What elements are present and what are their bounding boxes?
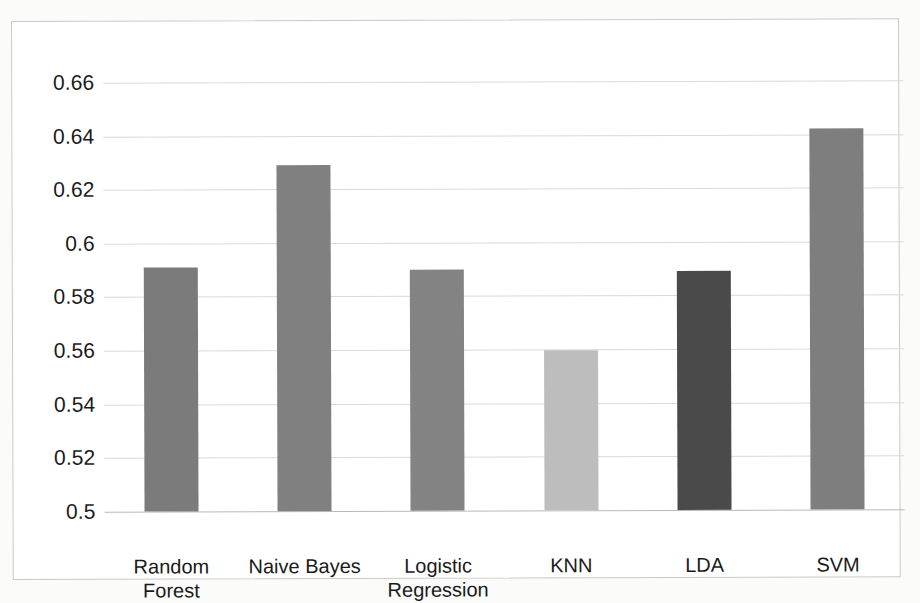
x-axis-category-label: LDA (638, 554, 771, 578)
gridline (104, 295, 904, 299)
y-axis-tick-label: 0.64 (24, 125, 94, 146)
x-axis-category-label: Naive Bayes (238, 555, 371, 579)
y-axis-tick-label: 0.56 (25, 340, 95, 361)
y-axis-tick-label: 0.62 (24, 179, 94, 200)
y-axis-tick-label: 0.54 (25, 393, 95, 414)
gridline (104, 456, 904, 460)
x-axis-category-label: Random Forest (105, 555, 238, 603)
bar-random-forest (143, 267, 198, 511)
y-axis-tick-label: 0.66 (24, 72, 94, 93)
y-axis: 0.660.640.620.60.580.560.540.520.5 (12, 56, 95, 512)
gridline (104, 241, 904, 245)
gridline (105, 509, 905, 513)
x-axis-category-label: Logistic Regression (371, 554, 504, 602)
bar-svm (810, 128, 865, 509)
chart-frame: 0.660.640.620.60.580.560.540.520.5 Rando… (11, 18, 901, 580)
gridline (104, 348, 904, 352)
y-axis-tick-label: 0.58 (25, 286, 95, 307)
y-axis-tick-label: 0.52 (25, 447, 95, 468)
plot-area: Random ForestNaive BayesLogistic Regress… (103, 53, 904, 512)
gridline (103, 80, 903, 84)
gridline (104, 402, 904, 406)
bar-naive-bayes (276, 165, 331, 511)
gridline (104, 187, 904, 191)
bar-lda (677, 271, 732, 510)
x-axis-category-label: SVM (771, 553, 904, 577)
bar-logistic-regression (410, 269, 465, 511)
x-axis-category-label: KNN (505, 554, 638, 578)
y-axis-tick-label: 0.5 (26, 501, 96, 522)
page-background: 0.660.640.620.60.580.560.540.520.5 Rando… (0, 0, 920, 603)
gridline (103, 134, 903, 138)
y-axis-tick-label: 0.6 (25, 233, 95, 254)
bar-knn (544, 351, 599, 511)
